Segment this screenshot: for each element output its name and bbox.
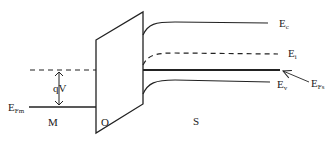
valence-band-curve [143, 80, 270, 94]
valence-band-label: Ev [277, 78, 288, 92]
semiconductor-region-label: S [193, 115, 199, 127]
metal-region-label: M [48, 116, 58, 128]
qv-label: qV [53, 82, 67, 94]
conduction-band-label: Ec [279, 17, 289, 31]
oxide-layer [96, 12, 143, 133]
semiconductor-fermi-label: EFs [311, 77, 325, 91]
mos-band-diagram: EFm qV M O S Ec Ei Ev EFs [0, 0, 334, 142]
oxide-region-label: O [101, 116, 109, 128]
metal-fermi-label: EFm [8, 101, 25, 115]
conduction-band-curve [143, 22, 268, 35]
intrinsic-level-curve [143, 53, 278, 65]
efs-pointer-arrow [283, 71, 309, 82]
intrinsic-level-label: Ei [288, 47, 297, 61]
